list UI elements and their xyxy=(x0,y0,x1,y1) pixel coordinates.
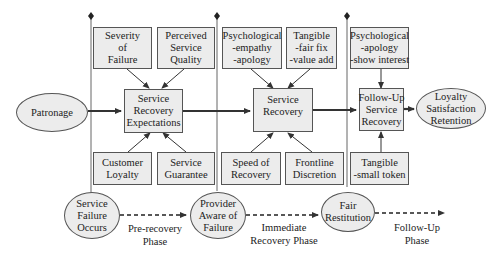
box-text: -show interest xyxy=(350,54,409,66)
box-text: Service xyxy=(170,157,202,169)
node-text: Patronage xyxy=(31,107,73,119)
service-recovery-expectations-box: Service Recovery Expectations xyxy=(124,89,183,133)
box-text: Recovery xyxy=(231,169,271,181)
box-text: Service xyxy=(267,94,299,106)
service-guarantee-box: Service Guarantee xyxy=(157,152,215,185)
box-text: Failure xyxy=(108,54,138,66)
psychological-empathy-apology-box: Psychological -empathy -apology xyxy=(222,27,282,69)
box-text: Tangible xyxy=(361,157,398,169)
pre-recovery-phase-label: Pre-recovery Phase xyxy=(120,222,190,248)
box-text: -fair fix xyxy=(295,42,327,54)
customer-loyalty-box: Customer Loyalty xyxy=(93,152,152,185)
immediate-recovery-phase-label: Immediate Recovery Phase xyxy=(244,221,324,247)
box-text: Perceived xyxy=(165,30,206,42)
patronage-node: Patronage xyxy=(16,93,88,132)
box-text: of xyxy=(118,42,127,54)
box-text: Speed of xyxy=(232,157,269,169)
perceived-service-quality-box: Perceived Service Quality xyxy=(157,27,215,69)
tangible-small-token-box: Tangible -small token xyxy=(350,152,409,185)
box-text: Service xyxy=(170,42,202,54)
phase-text: Pre-recovery xyxy=(128,222,182,235)
box-text: Psychological xyxy=(350,30,409,42)
box-text: Follow-Up xyxy=(358,92,404,104)
fair-restitution-node: Fair Restitution xyxy=(321,192,375,232)
box-text: Service xyxy=(138,93,170,105)
severity-of-failure-box: Severity of Failure xyxy=(93,27,152,69)
box-text: Discretion xyxy=(293,169,337,181)
box-text: Loyalty xyxy=(106,169,139,181)
timeline-arrows xyxy=(120,213,444,215)
node-text: Restitution xyxy=(325,212,371,224)
speed-of-recovery-box: Speed of Recovery xyxy=(221,152,281,185)
node-text: Service xyxy=(76,198,108,210)
follow-up-service-recovery-box: Follow-Up Service Recovery xyxy=(359,88,404,131)
node-text: Loyalty xyxy=(435,91,468,103)
phase-text: Recovery Phase xyxy=(250,234,317,247)
box-text: Expectations xyxy=(126,117,180,129)
phase-text: Follow-Up xyxy=(394,221,440,234)
node-text: Aware of xyxy=(199,210,237,222)
node-text: Retention xyxy=(431,115,472,127)
box-text: Psychological xyxy=(223,30,282,42)
follow-up-phase-label: Follow-Up Phase xyxy=(382,221,452,247)
box-text: Recovery xyxy=(361,116,401,128)
box-text: Tangible xyxy=(293,30,330,42)
phase-text: Immediate xyxy=(262,221,307,234)
box-text: Customer xyxy=(102,157,143,169)
node-text: Provider xyxy=(200,198,236,210)
box-text: -small token xyxy=(353,169,405,181)
node-text: Failure xyxy=(203,222,233,234)
frontline-discretion-box: Frontline Discretion xyxy=(285,152,344,185)
box-text: -value add xyxy=(289,54,333,66)
box-text: Frontline xyxy=(295,157,334,169)
phase-text: Phase xyxy=(143,235,168,248)
node-text: Failure xyxy=(77,210,107,222)
box-text: Severity xyxy=(105,30,140,42)
box-text: Guarantee xyxy=(164,169,207,181)
node-text: Occurs xyxy=(77,222,107,234)
node-text: Fair xyxy=(340,200,357,212)
loyalty-satisfaction-retention-node: Loyalty Satisfaction Retention xyxy=(416,88,486,129)
provider-aware-of-failure-node: Provider Aware of Failure xyxy=(190,192,246,239)
box-text: -apology xyxy=(233,54,270,66)
box-text: Quality xyxy=(170,54,202,66)
box-text: Recovery xyxy=(263,106,303,118)
box-text: -empathy xyxy=(232,42,272,54)
service-failure-occurs-node: Service Failure Occurs xyxy=(64,192,120,239)
box-text: Recovery xyxy=(133,105,173,117)
tangible-fair-fix-value-add-box: Tangible -fair fix -value add xyxy=(286,27,337,69)
box-text: -apology xyxy=(361,42,398,54)
service-recovery-box: Service Recovery xyxy=(253,88,313,132)
phase-text: Phase xyxy=(405,234,430,247)
box-text: Service xyxy=(366,104,398,116)
node-text: Satisfaction xyxy=(426,103,476,115)
psychological-apology-show-interest-box: Psychological -apology -show interest xyxy=(350,27,409,69)
